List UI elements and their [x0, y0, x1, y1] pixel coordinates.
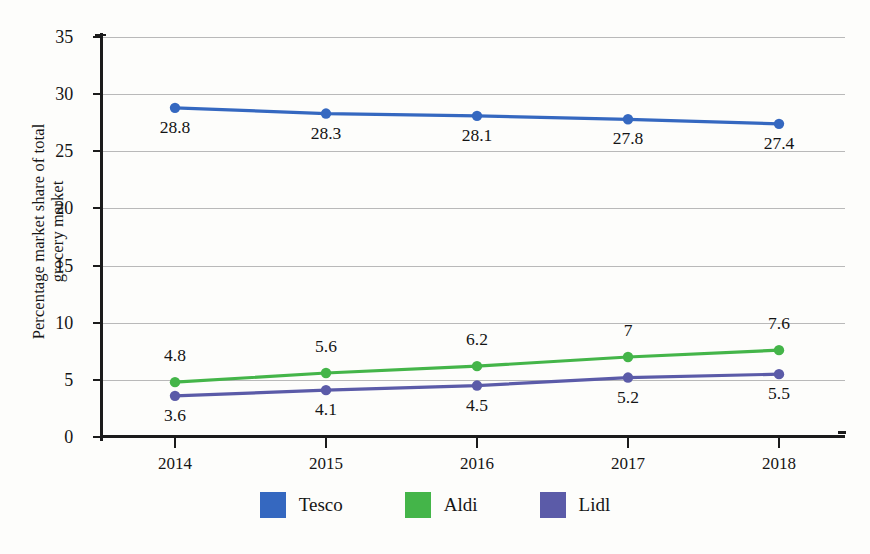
data-point-label: 5.6 — [315, 336, 337, 357]
x-tick-mark — [476, 437, 478, 448]
y-tick-label: 15 — [55, 255, 73, 276]
data-point-marker — [321, 385, 331, 395]
data-point-label: 28.3 — [311, 123, 342, 144]
y-tick-mark — [93, 436, 102, 438]
data-point-label: 7 — [624, 320, 633, 341]
data-point-label: 5.5 — [768, 383, 790, 404]
y-tick-mark — [93, 265, 102, 267]
data-point-marker — [321, 368, 331, 378]
data-point-label: 27.8 — [613, 128, 644, 149]
legend-item-lidl[interactable]: Lidl — [540, 492, 611, 518]
y-tick-label: 0 — [64, 427, 73, 448]
y-tick-mark — [93, 322, 102, 324]
data-point-marker — [472, 111, 482, 121]
y-tick-mark — [93, 93, 102, 95]
data-point-marker — [170, 377, 180, 387]
data-point-marker — [472, 380, 482, 390]
data-point-label: 4.5 — [466, 395, 488, 416]
chart-legend: TescoAldiLidl — [0, 492, 870, 518]
data-point-label: 4.8 — [164, 345, 186, 366]
data-point-marker — [623, 352, 633, 362]
data-point-marker — [623, 372, 633, 382]
data-point-label: 3.6 — [164, 405, 186, 426]
x-tick-label: 2018 — [762, 454, 796, 474]
y-tick-mark — [93, 150, 102, 152]
x-tick-label: 2016 — [460, 454, 494, 474]
data-point-marker — [472, 361, 482, 371]
series-lines — [103, 37, 845, 437]
x-tick-mark — [174, 437, 176, 448]
y-tick-mark — [93, 379, 102, 381]
y-tick-label: 5 — [64, 369, 73, 390]
x-tick-label: 2017 — [611, 454, 645, 474]
y-tick-label: 20 — [55, 198, 73, 219]
x-tick-mark — [325, 437, 327, 448]
data-point-label: 6.2 — [466, 329, 488, 350]
y-tick-mark — [93, 36, 102, 38]
legend-item-tesco[interactable]: Tesco — [260, 492, 343, 518]
legend-label: Aldi — [444, 494, 478, 516]
data-point-marker — [774, 119, 784, 129]
y-tick-label: 35 — [55, 27, 73, 48]
data-point-label: 4.1 — [315, 399, 337, 420]
data-point-marker — [623, 114, 633, 124]
data-point-label: 7.6 — [768, 313, 790, 334]
y-tick-label: 10 — [55, 312, 73, 333]
x-tick-mark — [627, 437, 629, 448]
legend-swatch-aldi — [405, 492, 431, 518]
legend-label: Tesco — [299, 494, 343, 516]
data-point-marker — [774, 369, 784, 379]
data-point-label: 28.8 — [160, 117, 191, 138]
x-tick-label: 2015 — [309, 454, 343, 474]
x-tick-mark — [778, 437, 780, 448]
legend-item-aldi[interactable]: Aldi — [405, 492, 478, 518]
y-tick-label: 30 — [55, 84, 73, 105]
data-point-marker — [321, 108, 331, 118]
line-chart-figure: Percentage market share of total grocery… — [0, 0, 870, 554]
legend-label: Lidl — [579, 494, 611, 516]
legend-swatch-lidl — [540, 492, 566, 518]
y-tick-mark — [93, 207, 102, 209]
plot-area: 05101520253035 20142015201620172018 28.8… — [103, 37, 845, 437]
data-point-label: 5.2 — [617, 387, 639, 408]
data-point-marker — [170, 103, 180, 113]
data-point-marker — [774, 345, 784, 355]
data-point-label: 27.4 — [764, 133, 795, 154]
y-tick-label: 25 — [55, 141, 73, 162]
data-point-marker — [170, 391, 180, 401]
data-point-label: 28.1 — [462, 125, 493, 146]
legend-swatch-tesco — [260, 492, 286, 518]
x-tick-label: 2014 — [158, 454, 192, 474]
